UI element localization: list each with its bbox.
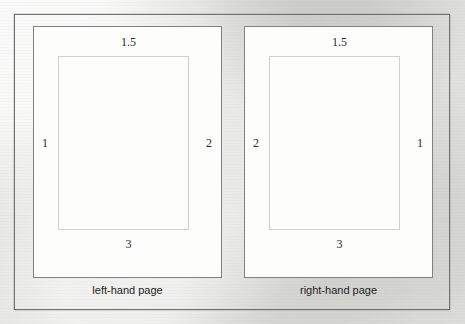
margin-label-top-left-page: 1.5	[34, 36, 223, 48]
text-block-left-hand	[58, 56, 189, 230]
page-box-left-hand: 1.5 1 2 3	[33, 26, 222, 278]
margin-label-top-right-page: 1.5	[245, 36, 434, 48]
page-box-right-hand: 1.5 2 1 3	[244, 26, 433, 278]
margin-label-left-left-page: 1	[42, 137, 48, 149]
page-caption-left-hand: left-hand page	[33, 284, 222, 296]
page-caption-right-hand: right-hand page	[244, 284, 433, 296]
margin-label-bottom-right-page: 3	[245, 238, 434, 250]
margin-label-left-right-page: 2	[253, 137, 259, 149]
margin-label-bottom-left-page: 3	[34, 238, 223, 250]
text-block-right-hand	[269, 56, 400, 230]
margin-label-right-right-page: 1	[417, 137, 423, 149]
margin-label-right-left-page: 2	[206, 137, 212, 149]
margin-diagram-figure: 1.5 1 2 3 left-hand page 1.5 2 1 3 right…	[0, 0, 465, 324]
